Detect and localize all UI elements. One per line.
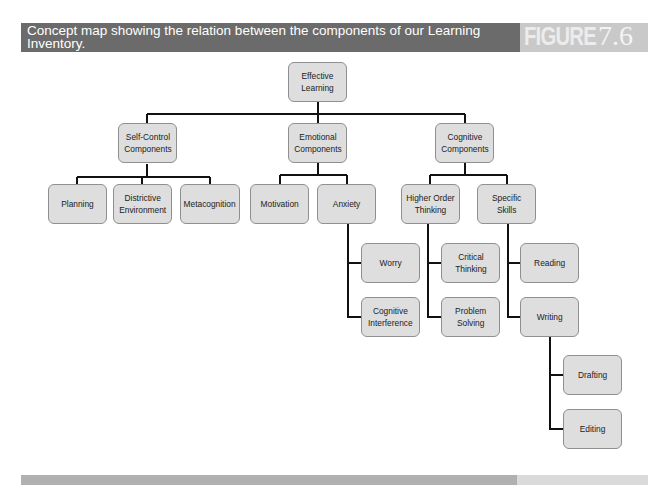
node-label: Self-Control Components [124, 131, 171, 155]
node-self-control-components: Self-Control Components [118, 123, 177, 163]
node-cognitive-components: Cognitive Components [435, 123, 494, 163]
node-planning: Planning [48, 184, 107, 224]
node-label: Worry [379, 257, 401, 269]
node-districtive-environment: Districtive Environment [113, 184, 172, 224]
node-label: Critical Thinking [455, 251, 487, 275]
node-label: Emotional Components [294, 131, 341, 155]
node-label: Problem Solving [455, 305, 486, 329]
footer-rule-light [517, 475, 648, 485]
node-label: Higher Order Thinking [406, 192, 454, 216]
node-label: Metacognition [184, 198, 236, 210]
footer-rule-dark [21, 475, 517, 485]
node-critical-thinking: Critical Thinking [441, 243, 500, 283]
node-label: Reading [534, 257, 565, 269]
node-label: Cognitive Components [441, 131, 488, 155]
node-reading: Reading [520, 243, 579, 283]
node-label: Motivation [260, 198, 298, 210]
node-label: Effective Learning [301, 70, 334, 94]
node-writing: Writing [520, 297, 579, 337]
node-label: Editing [580, 423, 606, 435]
node-higher-order-thinking: Higher Order Thinking [401, 184, 460, 224]
node-label: Specific Skills [492, 192, 521, 216]
node-drafting: Drafting [563, 355, 622, 395]
node-metacognition: Metacognition [180, 184, 240, 224]
node-label: Anxiety [333, 198, 360, 210]
node-problem-solving: Problem Solving [441, 297, 500, 337]
node-label: Districtive Environment [119, 192, 166, 216]
node-anxiety: Anxiety [317, 184, 376, 224]
node-label: Planning [61, 198, 94, 210]
node-label: Writing [537, 311, 563, 323]
node-specific-skills: Specific Skills [477, 184, 536, 224]
node-editing: Editing [563, 409, 622, 449]
node-emotional-components: Emotional Components [288, 123, 347, 163]
node-label: Drafting [578, 369, 607, 381]
node-worry: Worry [361, 243, 420, 283]
node-motivation: Motivation [250, 184, 309, 224]
node-cognitive-interference: Cognitive Interference [361, 297, 420, 337]
node-label: Cognitive Interference [368, 305, 413, 329]
node-effective-learning: Effective Learning [288, 62, 347, 102]
